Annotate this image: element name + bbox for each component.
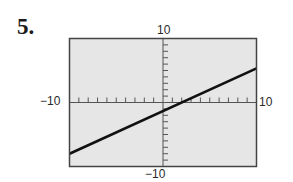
- axes: [70, 39, 257, 167]
- graph: [0, 0, 293, 182]
